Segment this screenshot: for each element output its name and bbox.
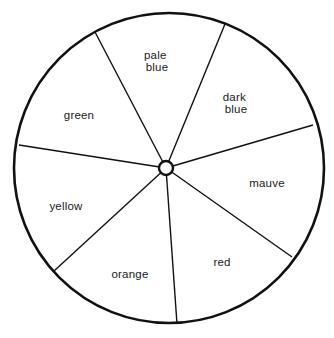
label-yellow: yellow [49,200,83,212]
label-orange-line1: orange [111,268,148,280]
label-mauve: mauve [249,177,285,189]
label-green: green [64,109,94,121]
label-red: red [213,256,230,268]
label-dark-blue: dark blue [223,91,250,116]
label-dark-blue-line1: dark [223,91,246,103]
label-orange: orange [111,268,148,280]
label-green-line1: green [64,109,94,121]
color-wheel-diagram: pale blue dark blue mauve red orange yel… [0,0,334,338]
label-pale-blue: pale blue [144,49,170,74]
hub-circle [159,161,173,175]
label-dark-blue-line2: blue [225,103,248,115]
label-pale-blue-line1: pale [144,49,167,61]
label-mauve-line1: mauve [249,177,285,189]
label-red-line1: red [213,256,230,268]
label-pale-blue-line2: blue [146,61,169,73]
label-yellow-line1: yellow [49,200,83,212]
